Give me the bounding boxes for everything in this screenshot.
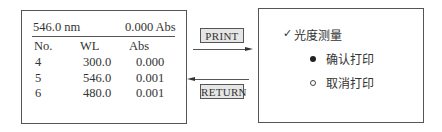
row-5-no: 5	[35, 71, 41, 86]
menu-title: 光度测量	[294, 26, 342, 43]
row-6-no: 6	[35, 86, 41, 101]
arrow-right-icon	[245, 47, 253, 51]
arrow-left-icon	[187, 77, 195, 81]
back-arrow-line	[195, 79, 249, 80]
print-key[interactable]: PRINT	[200, 28, 244, 43]
option-cancel-print[interactable]: 取消打印	[326, 74, 374, 91]
column-header-wl: WL	[80, 39, 99, 54]
option-confirm-print[interactable]: 确认打印	[326, 50, 374, 67]
row-4-no: 4	[35, 55, 41, 70]
forward-arrow-line	[193, 49, 247, 50]
column-header-no: No.	[34, 39, 52, 54]
row-6-abs: 0.001	[136, 86, 164, 101]
row-4-abs: 0.000	[136, 55, 164, 70]
column-header-abs: Abs	[129, 39, 149, 54]
row-4-wl: 300.0	[83, 55, 111, 70]
row-5-abs: 0.001	[136, 71, 164, 86]
row-6-wl: 480.0	[83, 86, 111, 101]
current-absorbance: 0.000 Abs	[125, 20, 176, 35]
header-divider	[32, 36, 175, 37]
return-key[interactable]: RETURN	[200, 84, 244, 99]
current-wavelength: 546.0 nm	[33, 20, 80, 35]
radio-unselected-icon[interactable]	[310, 80, 316, 86]
row-5-wl: 546.0	[83, 71, 111, 86]
radio-selected-icon[interactable]	[310, 56, 316, 62]
check-icon: ✓	[283, 27, 292, 40]
